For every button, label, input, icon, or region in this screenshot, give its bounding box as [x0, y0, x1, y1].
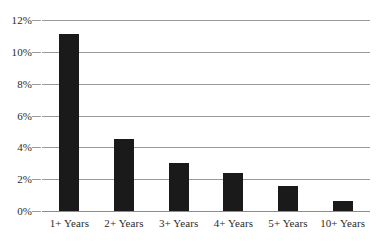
y-tick-label: 10% — [12, 47, 32, 58]
gridline — [42, 20, 370, 21]
x-tick-label: 2+ Years — [97, 218, 152, 229]
y-tick-label: 8% — [17, 79, 32, 90]
bar — [59, 34, 79, 211]
y-tick-label: 12% — [12, 15, 32, 26]
y-tick-mark — [32, 147, 41, 148]
gridline — [42, 116, 370, 117]
bar — [333, 201, 353, 211]
x-tick-label: 3+ Years — [151, 218, 206, 229]
x-tick-label: 4+ Years — [206, 218, 261, 229]
y-tick-label: 4% — [17, 142, 32, 153]
x-axis: 1+ Years2+ Years3+ Years4+ Years5+ Years… — [0, 218, 385, 238]
bar — [114, 139, 134, 211]
x-tick-label: 1+ Years — [42, 218, 97, 229]
bar-chart: 12%10%8%6%4%2%0% 1+ Years2+ Years3+ Year… — [0, 0, 385, 244]
y-tick-label: 0% — [17, 206, 32, 217]
y-tick-mark — [32, 211, 41, 212]
y-tick-mark — [32, 20, 41, 21]
bar — [169, 163, 189, 211]
gridline — [42, 179, 370, 180]
bar — [223, 173, 243, 211]
x-tick-label: 5+ Years — [261, 218, 316, 229]
gridline — [42, 84, 370, 85]
y-tick-mark — [32, 179, 41, 180]
plot-area — [42, 20, 370, 211]
gridline — [42, 147, 370, 148]
y-tick-label: 2% — [17, 174, 32, 185]
y-tick-label: 6% — [17, 111, 32, 122]
x-tick-label: 10+ Years — [315, 218, 370, 229]
axis-baseline — [42, 211, 370, 212]
y-tick-mark — [32, 116, 41, 117]
y-axis: 12%10%8%6%4%2%0% — [0, 0, 32, 244]
bar — [278, 186, 298, 211]
gridline — [42, 52, 370, 53]
y-tick-mark — [32, 52, 41, 53]
y-tick-mark — [32, 84, 41, 85]
